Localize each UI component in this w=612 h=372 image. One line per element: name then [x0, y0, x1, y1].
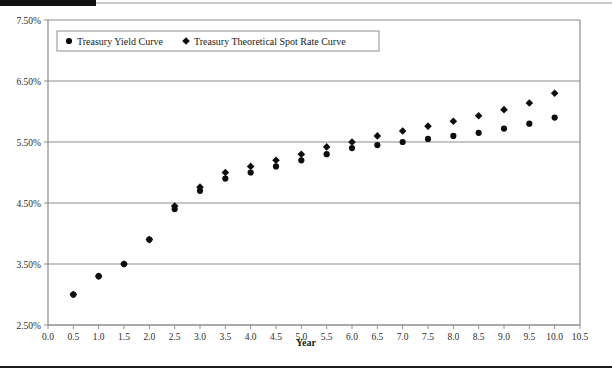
- x-tick-label: 1.5: [118, 332, 130, 342]
- x-tick-label: 6.5: [371, 332, 383, 342]
- data-point-yield-curve: [222, 176, 228, 182]
- x-axis-title: Year: [296, 337, 317, 348]
- data-point-spot-rate: [399, 127, 407, 135]
- tick-mark-group: [44, 20, 580, 329]
- x-tick-label: 0.5: [67, 332, 79, 342]
- x-tick-label: 0.0: [42, 332, 54, 342]
- data-point-spot-rate: [247, 163, 255, 171]
- data-point-spot-rate: [551, 89, 559, 97]
- chart-legend: Treasury Yield CurveTreasury Theoretical…: [57, 31, 379, 51]
- x-tick-label: 8.0: [447, 332, 459, 342]
- y-tick-label: 7.50%: [16, 16, 41, 26]
- data-point-yield-curve: [526, 121, 532, 127]
- data-point-yield-curve: [273, 163, 279, 169]
- x-tick-label: 9.5: [523, 332, 535, 342]
- data-point-yield-curve: [476, 130, 482, 136]
- data-point-spot-rate: [374, 132, 382, 140]
- y-axis-tick-labels: 2.50%3.50%4.50%5.50%6.50%7.50%: [16, 16, 41, 331]
- data-point-yield-curve: [400, 139, 406, 145]
- data-point-spot-rate: [222, 169, 230, 177]
- data-point-spot-rate: [526, 99, 534, 107]
- y-tick-label: 2.50%: [16, 321, 41, 331]
- x-tick-label: 3.5: [219, 332, 231, 342]
- x-tick-label: 5.5: [321, 332, 333, 342]
- chart-plot: 2.50%3.50%4.50%5.50%6.50%7.50% 0.00.51.0…: [0, 0, 612, 372]
- data-point-spot-rate: [323, 143, 331, 151]
- x-tick-label: 2.5: [169, 332, 181, 342]
- legend-marker-yield-curve: [66, 38, 72, 44]
- y-tick-label: 6.50%: [16, 77, 41, 87]
- data-point-spot-rate: [70, 291, 78, 299]
- data-point-yield-curve: [425, 136, 431, 142]
- x-tick-label: 8.5: [473, 332, 485, 342]
- data-point-spot-rate: [298, 150, 306, 158]
- data-point-spot-rate: [500, 106, 508, 114]
- data-point-spot-rate: [146, 236, 154, 244]
- x-tick-label: 4.5: [270, 332, 282, 342]
- y-tick-label: 3.50%: [16, 260, 41, 270]
- data-point-yield-curve: [298, 157, 304, 163]
- data-point-yield-curve: [374, 142, 380, 148]
- x-tick-label: 10.0: [546, 332, 563, 342]
- gridline-group: [48, 20, 580, 325]
- x-tick-label: 9.0: [498, 332, 510, 342]
- data-point-spot-rate: [348, 138, 356, 146]
- data-point-spot-rate: [120, 260, 128, 268]
- x-tick-label: 1.0: [93, 332, 105, 342]
- data-point-yield-curve: [324, 151, 330, 157]
- x-tick-label: 10.5: [572, 332, 589, 342]
- x-tick-label: 2.0: [143, 332, 155, 342]
- x-tick-label: 3.0: [194, 332, 206, 342]
- x-tick-label: 6.0: [346, 332, 358, 342]
- data-point-yield-curve: [501, 125, 507, 131]
- data-point-spot-rate: [424, 122, 432, 130]
- data-point-yield-curve: [349, 145, 355, 151]
- y-tick-label: 5.50%: [16, 138, 41, 148]
- legend-label-yield-curve: Treasury Yield Curve: [77, 36, 163, 47]
- y-tick-label: 4.50%: [16, 199, 41, 209]
- x-tick-label: 4.0: [245, 332, 257, 342]
- axis-line-group: [48, 20, 580, 325]
- data-point-spot-rate: [450, 117, 458, 125]
- x-tick-label: 7.0: [397, 332, 409, 342]
- yield-curve-figure: 2.50%3.50%4.50%5.50%6.50%7.50% 0.00.51.0…: [0, 0, 612, 372]
- x-tick-label: 7.5: [422, 332, 434, 342]
- page-canvas: 2.50%3.50%4.50%5.50%6.50%7.50% 0.00.51.0…: [0, 0, 612, 372]
- data-point-yield-curve: [552, 115, 558, 121]
- data-point-spot-rate: [272, 157, 280, 165]
- data-point-yield-curve: [248, 169, 254, 175]
- legend-label-spot-rate: Treasury Theoretical Spot Rate Curve: [194, 36, 346, 47]
- data-point-spot-rate: [95, 272, 103, 280]
- data-point-spot-rate: [475, 112, 483, 120]
- data-point-yield-curve: [450, 133, 456, 139]
- data-point-group: [70, 89, 559, 298]
